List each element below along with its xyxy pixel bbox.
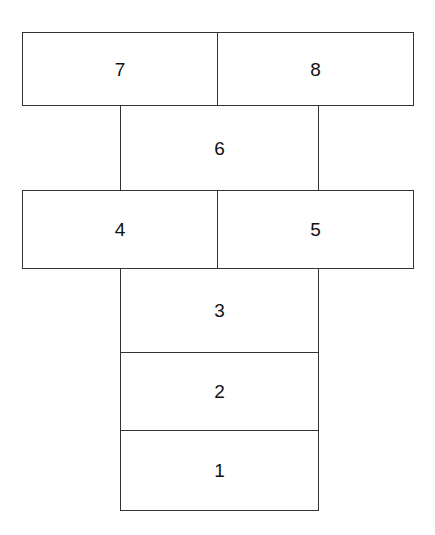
hopscotch-cell-label-3: 3	[214, 301, 225, 320]
hopscotch-cell-7: 7	[22, 32, 218, 106]
hopscotch-cell-4: 4	[22, 190, 218, 269]
hopscotch-cell-5: 5	[217, 190, 414, 269]
hopscotch-cell-label-5: 5	[310, 220, 321, 239]
hopscotch-cell-label-2: 2	[214, 382, 225, 401]
hopscotch-cell-6: 6	[120, 105, 319, 191]
hopscotch-court-diagram: 7 8 6 4 5 3 2 1	[0, 0, 435, 535]
hopscotch-cell-1: 1	[120, 430, 319, 511]
hopscotch-cell-2: 2	[120, 352, 319, 431]
hopscotch-cell-label-1: 1	[214, 461, 225, 480]
hopscotch-cell-8: 8	[217, 32, 414, 106]
hopscotch-cell-label-6: 6	[214, 139, 225, 158]
hopscotch-cell-label-4: 4	[115, 220, 126, 239]
hopscotch-cell-label-7: 7	[115, 60, 126, 79]
hopscotch-cell-label-8: 8	[310, 60, 321, 79]
hopscotch-cell-3: 3	[120, 268, 319, 353]
